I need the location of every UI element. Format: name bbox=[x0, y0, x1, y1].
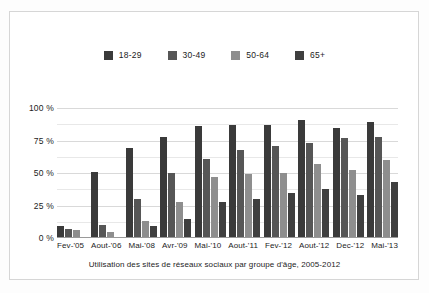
x-tick-label: Mai-'13 bbox=[371, 241, 398, 250]
bar-30-49-Dec-'12[interactable] bbox=[341, 138, 348, 238]
bar-65+-Mai-'13[interactable] bbox=[391, 182, 398, 238]
x-tick-label: Mai-'10 bbox=[195, 241, 222, 250]
bar-group bbox=[91, 108, 122, 238]
legend-entry-65+[interactable]: 65+ bbox=[295, 50, 325, 60]
bar-30-49-Aout-'12[interactable] bbox=[306, 143, 313, 238]
bar-50-64-Aout-'11[interactable] bbox=[245, 174, 252, 238]
bar-groups bbox=[57, 108, 398, 238]
bar-30-49-Avr-'09[interactable] bbox=[168, 173, 175, 238]
bar-group bbox=[298, 108, 329, 238]
y-tick-label: 50 % bbox=[34, 168, 54, 178]
bar-30-49-Aout-'11[interactable] bbox=[237, 150, 244, 238]
legend-label: 30-49 bbox=[183, 50, 206, 60]
x-tick-label: Aout-'11 bbox=[228, 241, 258, 250]
legend-entry-30-49[interactable]: 30-49 bbox=[168, 50, 206, 60]
bar-18-29-Dec-'12[interactable] bbox=[333, 128, 340, 239]
legend-entry-18-29[interactable]: 18-29 bbox=[104, 50, 142, 60]
y-axis-tick-labels: 0 %25 %50 %75 %100 % bbox=[14, 108, 54, 238]
bar-65+-Fev-'12[interactable] bbox=[288, 193, 295, 239]
y-tick-label: 0 % bbox=[39, 233, 54, 243]
plot-area bbox=[57, 108, 398, 238]
bar-50-64-Fev-'12[interactable] bbox=[280, 173, 287, 238]
bar-group bbox=[367, 108, 398, 238]
bar-group bbox=[57, 108, 88, 238]
bar-18-29-Fev-'12[interactable] bbox=[264, 125, 271, 238]
y-tick-label: 100 % bbox=[29, 103, 54, 113]
chart-legend: 18-2930-4950-6465+ bbox=[0, 50, 429, 60]
bar-50-64-Aout-'12[interactable] bbox=[314, 164, 321, 238]
bar-50-64-Mai-'13[interactable] bbox=[383, 160, 390, 238]
bar-18-29-Mai-'13[interactable] bbox=[367, 122, 374, 238]
bar-18-29-Avr-'09[interactable] bbox=[160, 137, 167, 238]
bar-18-29-Aout-'06[interactable] bbox=[91, 172, 98, 238]
x-axis-tick-labels: Fev-'05Aout-'06Mai-'08Avr-'09Mai-'10Aout… bbox=[57, 241, 398, 250]
bar-30-49-Mai-'10[interactable] bbox=[203, 159, 210, 238]
bar-65+-Dec-'12[interactable] bbox=[357, 195, 364, 238]
bar-group bbox=[195, 108, 226, 238]
x-tick-label: Dec-'12 bbox=[336, 241, 364, 250]
chart-caption: Utilisation des sites de réseaux sociaux… bbox=[0, 260, 429, 269]
legend-label: 18-29 bbox=[119, 50, 142, 60]
chart-figure: 18-2930-4950-6465+ 0 %25 %50 %75 %100 % … bbox=[0, 0, 429, 293]
x-tick-label: Avr-'09 bbox=[162, 241, 188, 250]
legend-swatch-icon bbox=[231, 51, 240, 60]
bar-group bbox=[160, 108, 191, 238]
legend-swatch-icon bbox=[295, 51, 304, 60]
legend-label: 50-64 bbox=[246, 50, 269, 60]
legend-swatch-icon bbox=[168, 51, 177, 60]
bar-18-29-Mai-'10[interactable] bbox=[195, 126, 202, 238]
bar-30-49-Fev-'12[interactable] bbox=[272, 146, 279, 238]
bar-50-64-Dec-'12[interactable] bbox=[349, 170, 356, 238]
y-tick-label: 25 % bbox=[34, 201, 54, 211]
bar-18-29-Aout-'11[interactable] bbox=[229, 125, 236, 238]
y-tick-label: 75 % bbox=[34, 136, 54, 146]
legend-entry-50-64[interactable]: 50-64 bbox=[231, 50, 269, 60]
bar-65+-Aout-'12[interactable] bbox=[322, 189, 329, 238]
bar-65+-Mai-'10[interactable] bbox=[219, 202, 226, 238]
bar-50-64-Avr-'09[interactable] bbox=[176, 202, 183, 238]
legend-swatch-icon bbox=[104, 51, 113, 60]
bar-30-49-Mai-'13[interactable] bbox=[375, 137, 382, 238]
bar-group bbox=[264, 108, 295, 238]
bar-50-64-Mai-'10[interactable] bbox=[211, 177, 218, 238]
bar-group bbox=[229, 108, 260, 238]
x-axis-line bbox=[57, 237, 398, 238]
x-tick-label: Fev-'12 bbox=[265, 241, 292, 250]
x-tick-label: Aout-'12 bbox=[299, 241, 329, 250]
x-tick-label: Aout-'06 bbox=[91, 241, 121, 250]
legend-label: 65+ bbox=[310, 50, 325, 60]
bar-group bbox=[333, 108, 364, 238]
bar-30-49-Mai-'08[interactable] bbox=[134, 199, 141, 238]
x-tick-label: Fev-'05 bbox=[57, 241, 84, 250]
bar-65+-Aout-'11[interactable] bbox=[253, 199, 260, 238]
bar-50-64-Mai-'08[interactable] bbox=[142, 221, 149, 238]
x-tick-label: Mai-'08 bbox=[128, 241, 155, 250]
bar-group bbox=[126, 108, 157, 238]
bar-65+-Avr-'09[interactable] bbox=[184, 219, 191, 239]
bar-18-29-Aout-'12[interactable] bbox=[298, 120, 305, 238]
bar-18-29-Mai-'08[interactable] bbox=[126, 148, 133, 238]
